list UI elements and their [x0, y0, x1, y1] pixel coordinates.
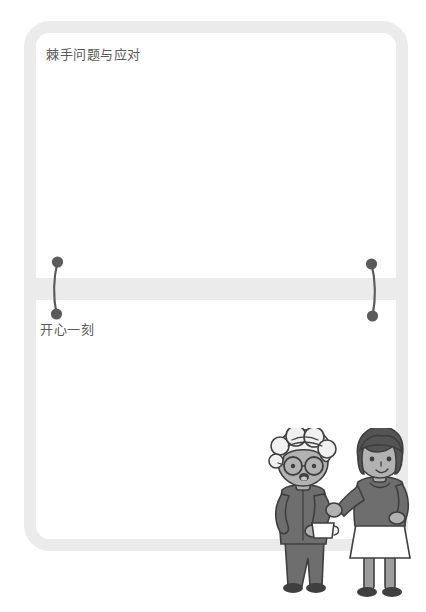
top-card-face: [36, 33, 396, 278]
page-root: 棘手问题与应对 开心一刻 .ol { stroke:#3f3f3f; strok…: [0, 0, 426, 612]
left-connector-bottom-dot: [51, 308, 62, 319]
top-card-title: 棘手问题与应对: [46, 45, 141, 65]
two-women-conversation-illustration: .ol { stroke:#3f3f3f; stroke-width:1.6; …: [252, 428, 426, 612]
young-woman-figure: [326, 428, 410, 597]
right-connector: [356, 256, 386, 336]
right-connector-bottom-dot: [367, 310, 378, 321]
right-connector-top-dot: [366, 258, 377, 269]
left-connector-top-dot: [52, 256, 63, 267]
left-connector: [43, 252, 73, 332]
